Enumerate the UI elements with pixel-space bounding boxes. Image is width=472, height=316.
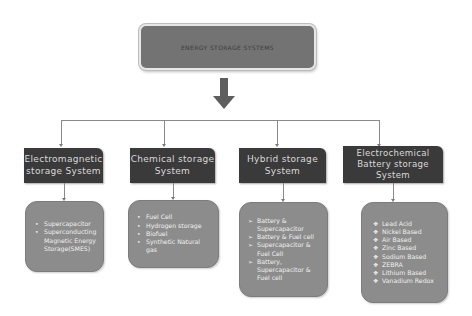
connector-line (61, 120, 62, 145)
list-item: •Superconducting Magnetic Energy Storage… (35, 228, 97, 253)
list-item: ❖Lithium Based (373, 269, 441, 277)
content-box-hybrid: ➢Battery & Supercapacitor ➢Battery & Fue… (239, 202, 328, 297)
list-item: ❖ZEBRA (373, 261, 441, 269)
list-item: ➢Battery & Fuel cell (248, 233, 321, 241)
category-box-chemical: Chemical storage System (130, 148, 215, 183)
list-item: •Fuel Cell (137, 213, 212, 221)
connector-line (379, 120, 380, 145)
title-box: ENERGY STORAGE SYSTEMS (139, 24, 316, 70)
list-item: ❖Lead Acid (373, 220, 441, 228)
list-item: ➢Supercapacitor & Fuel Cell (248, 241, 321, 257)
content-box-electrochemical: ❖Lead Acid ❖Nickel Based ❖Air Based ❖Zin… (361, 202, 448, 303)
list-item: ➢Battery, Supercapacitor & Fuel cell (248, 258, 321, 283)
down-arrow-icon (213, 78, 235, 110)
arrow-bullet-icon: ➢ (248, 217, 257, 233)
bullet-dot-icon: • (137, 230, 146, 238)
list-item: •Synthetic Natural gas (137, 238, 212, 254)
item-list: ➢Battery & Supercapacitor ➢Battery & Fue… (248, 217, 321, 283)
content-box-chemical: •Fuel Cell •Hydrogen storage •Biofuel •S… (128, 200, 219, 268)
diamond-bullet-icon: ❖ (373, 261, 382, 269)
diagram-title: ENERGY STORAGE SYSTEMS (181, 44, 274, 51)
arrow-tip-icon (162, 144, 166, 147)
connector-line (164, 120, 165, 145)
bullet-dot-icon: • (137, 213, 146, 221)
diamond-bullet-icon: ❖ (373, 277, 382, 285)
bullet-dot-icon: • (35, 228, 44, 253)
item-list: ❖Lead Acid ❖Nickel Based ❖Air Based ❖Zin… (373, 220, 441, 286)
content-box-electromagnetic: •Supercapacitor •Superconducting Magneti… (25, 201, 104, 272)
arrow-tip-icon (59, 144, 63, 147)
arrow-tip-icon (275, 144, 279, 147)
list-item: ❖Nickel Based (373, 228, 441, 236)
diamond-bullet-icon: ❖ (373, 244, 382, 252)
list-item: ➢Battery & Supercapacitor (248, 217, 321, 233)
diamond-bullet-icon: ❖ (373, 220, 382, 228)
category-label: Electrochemical Battery storage System (343, 148, 443, 181)
diamond-bullet-icon: ❖ (373, 236, 382, 244)
diamond-bullet-icon: ❖ (373, 228, 382, 236)
category-box-electrochemical: Electrochemical Battery storage System (343, 146, 443, 183)
bullet-dot-icon: • (35, 220, 44, 228)
category-label: Hybrid storage System (239, 154, 326, 177)
item-list: •Fuel Cell •Hydrogen storage •Biofuel •S… (137, 213, 212, 254)
list-item: •Biofuel (137, 230, 212, 238)
item-list: •Supercapacitor •Superconducting Magneti… (35, 220, 97, 253)
connector-line (173, 183, 174, 198)
list-item: ❖Zinc Based (373, 244, 441, 252)
category-label: Electromagnetic storage System (24, 154, 103, 177)
connector-line (283, 183, 284, 200)
connector-line (64, 183, 65, 199)
bullet-dot-icon: • (137, 238, 146, 254)
diamond-bullet-icon: ❖ (373, 253, 382, 261)
list-item: •Hydrogen storage (137, 222, 212, 230)
list-item: ❖Vanadium Redox (373, 277, 441, 285)
category-label: Chemical storage System (130, 154, 215, 177)
arrow-bullet-icon: ➢ (248, 241, 257, 257)
category-box-hybrid: Hybrid storage System (239, 148, 326, 183)
connector-line (277, 120, 278, 145)
connector-line (393, 183, 394, 200)
branch-connector-line (61, 120, 379, 121)
list-item: •Supercapacitor (35, 220, 97, 228)
list-item: ❖Air Based (373, 236, 441, 244)
list-item: ❖Sodium Based (373, 253, 441, 261)
bullet-dot-icon: • (137, 222, 146, 230)
category-box-electromagnetic: Electromagnetic storage System (24, 148, 103, 183)
arrow-bullet-icon: ➢ (248, 233, 257, 241)
arrow-bullet-icon: ➢ (248, 258, 257, 283)
diamond-bullet-icon: ❖ (373, 269, 382, 277)
